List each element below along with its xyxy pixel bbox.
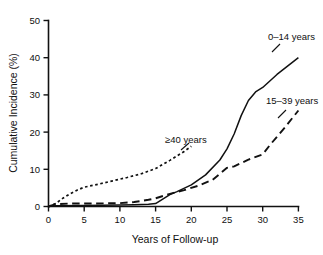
y-tick-label-50: 50 — [29, 15, 40, 26]
leader-line-15-39 — [278, 110, 286, 118]
y-tick-label-20: 20 — [29, 127, 40, 138]
leader-line-0-14 — [272, 44, 280, 52]
x-tick-label-15: 15 — [150, 214, 161, 225]
series-line-0-14 — [49, 58, 299, 207]
series-label-0-14: 0–14 years — [268, 31, 315, 42]
y-axis-title: Cumulative Incidence (%) — [7, 53, 19, 173]
series-line-40plus — [49, 146, 192, 206]
x-tick-label-10: 10 — [115, 214, 126, 225]
y-tick-label-0: 0 — [35, 201, 40, 212]
cumulative-incidence-chart: 0 10 20 30 40 50 0 5 10 15 20 25 30 — [0, 0, 323, 255]
x-axis-title: Years of Follow-up — [132, 233, 219, 245]
x-tick-label-0: 0 — [46, 214, 51, 225]
x-tick-label-5: 5 — [82, 214, 87, 225]
y-tick-label-30: 30 — [29, 89, 40, 100]
y-tick-label-40: 40 — [29, 52, 40, 63]
x-tick-label-25: 25 — [222, 214, 233, 225]
x-axis-tick-labels: 0 5 10 15 20 25 30 35 — [46, 214, 304, 225]
x-tick-label-20: 20 — [186, 214, 197, 225]
series-line-15-39 — [49, 111, 299, 207]
y-axis-tick-labels: 0 10 20 30 40 50 — [29, 15, 40, 212]
x-tick-label-35: 35 — [293, 214, 304, 225]
chart-plot-area: 0 10 20 30 40 50 0 5 10 15 20 25 30 — [0, 0, 323, 255]
series-label-15-39: 15–39 years — [266, 95, 319, 106]
series-label-40plus: ≥40 years — [165, 134, 207, 145]
y-tick-label-10: 10 — [29, 164, 40, 175]
x-tick-label-30: 30 — [257, 214, 268, 225]
